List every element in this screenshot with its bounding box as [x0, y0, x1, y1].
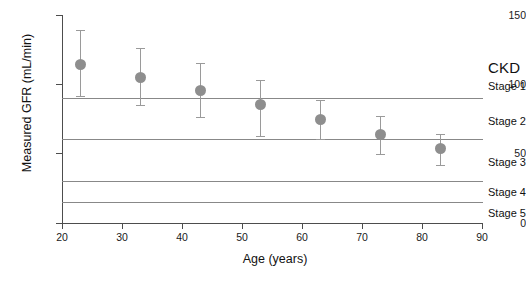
x-tick-label-20: 20: [42, 232, 82, 242]
x-tick-label-40: 40: [162, 232, 202, 242]
x-tick-label-90: 90: [462, 232, 502, 242]
error-bar-cap-upper: [316, 100, 325, 101]
y-tick-50: [56, 153, 62, 154]
y-tick-label-150: 150: [488, 10, 526, 20]
y-tick-100: [56, 84, 62, 85]
y-tick-150: [56, 15, 62, 16]
data-point: [435, 143, 446, 154]
error-bar-cap-upper: [76, 30, 85, 31]
ckd-heading: CKD: [488, 60, 520, 75]
error-bar-cap-lower: [316, 139, 325, 140]
x-tick-label-30: 30: [102, 232, 142, 242]
x-tick-30: [122, 223, 123, 229]
data-point: [135, 72, 146, 83]
x-tick-label-50: 50: [222, 232, 262, 242]
x-axis-title: Age (years): [150, 252, 400, 266]
error-bar-cap-upper: [136, 48, 145, 49]
error-bar-cap-lower: [256, 136, 265, 137]
x-tick-40: [182, 223, 183, 229]
reference-line-gfr-30: [62, 181, 483, 182]
y-axis-title: Measured GFR (mL/min): [20, 28, 34, 178]
data-point: [375, 129, 386, 140]
x-tick-70: [362, 223, 363, 229]
error-bar-cap-upper: [196, 63, 205, 64]
error-bar-cap-upper: [376, 116, 385, 117]
data-point: [75, 59, 86, 70]
error-bar-cap-lower: [76, 96, 85, 97]
stage-label-1: Stage 1: [488, 80, 526, 92]
reference-line-gfr-15: [62, 202, 483, 203]
x-tick-label-70: 70: [342, 232, 382, 242]
data-point: [255, 99, 266, 110]
stage-label-3: Stage 3: [488, 156, 526, 168]
stage-label-4: Stage 4: [488, 186, 526, 198]
x-tick-label-60: 60: [282, 232, 322, 242]
error-bar-cap-lower: [436, 165, 445, 166]
error-bar-cap-lower: [376, 154, 385, 155]
x-tick-label-80: 80: [402, 232, 442, 242]
error-bar-cap-upper: [436, 134, 445, 135]
x-tick-20: [62, 223, 63, 229]
error-bar-cap-upper: [256, 80, 265, 81]
x-axis-line: [62, 223, 483, 224]
x-tick-50: [242, 223, 243, 229]
reference-line-gfr-90: [62, 98, 483, 99]
gfr-age-chart: 150 100 50 0 20 30 40 50 60 70 80 90 CKD…: [0, 0, 526, 282]
error-bar-cap-lower: [136, 105, 145, 106]
y-tick-label-0: 0: [488, 218, 526, 228]
reference-line-gfr-60: [62, 139, 483, 140]
x-tick-60: [302, 223, 303, 229]
data-point: [195, 85, 206, 96]
y-axis-line: [62, 15, 63, 224]
error-bar-cap-lower: [196, 117, 205, 118]
stage-label-5: Stage 5: [488, 207, 526, 219]
x-tick-90: [482, 223, 483, 229]
data-point: [315, 114, 326, 125]
x-tick-80: [422, 223, 423, 229]
stage-label-2: Stage 2: [488, 115, 526, 127]
